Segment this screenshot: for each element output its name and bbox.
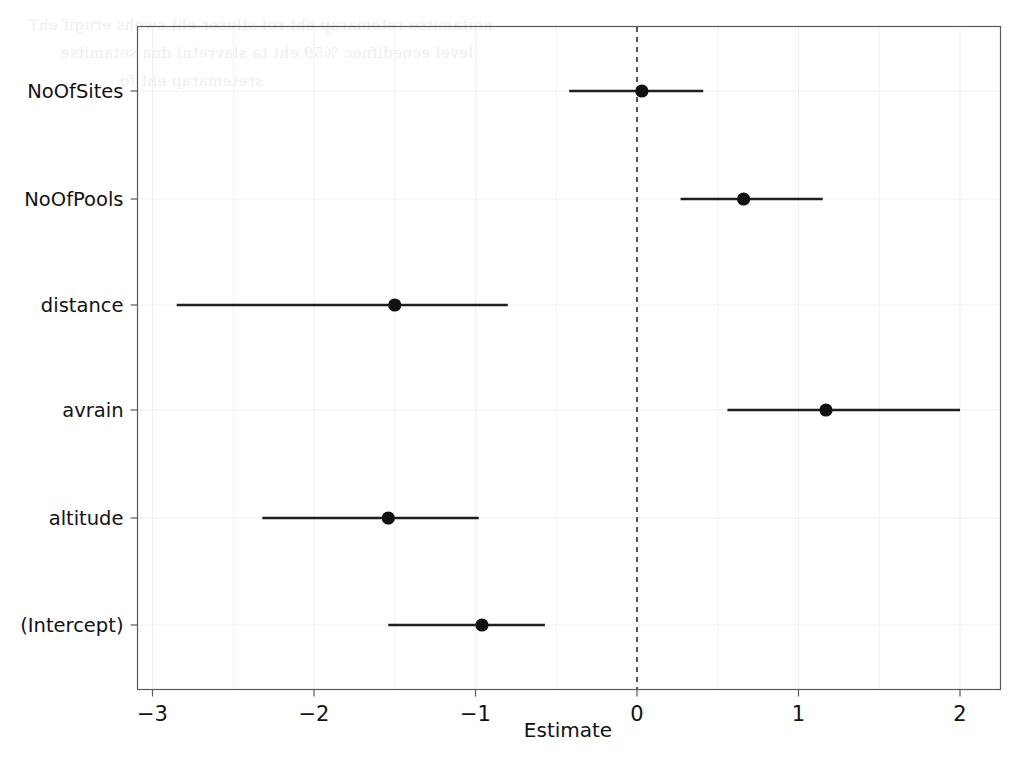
y-tick-label: (Intercept) [0, 614, 124, 637]
coefficient-row [177, 298, 508, 311]
coefficient-row [262, 511, 478, 524]
estimate-point [635, 84, 648, 97]
coefficient-plot-figure: NoOfSitesNoOfPoolsdistanceavrainaltitude… [0, 0, 1024, 773]
estimate-point [475, 618, 488, 631]
estimate-point [382, 511, 395, 524]
coefficient-row [681, 192, 823, 205]
coefficient-row [569, 84, 703, 97]
estimate-point [388, 298, 401, 311]
plot-frame-border [138, 27, 1001, 690]
x-tick-label: −1 [460, 702, 491, 726]
x-tick-label: 0 [630, 702, 643, 726]
y-axis-ticks [131, 91, 138, 625]
x-tick-label: −2 [299, 702, 330, 726]
x-axis-ticks [153, 690, 961, 697]
y-tick-label: NoOfSites [0, 80, 124, 103]
x-tick-label: 1 [792, 702, 805, 726]
x-tick-label: 2 [953, 702, 966, 726]
y-tick-label: avrain [0, 399, 124, 422]
x-tick-label: −3 [137, 702, 168, 726]
y-tick-label: NoOfPools [0, 188, 124, 211]
y-tick-label: distance [0, 294, 124, 317]
coefficient-row [727, 403, 960, 416]
coefficient-row [388, 618, 545, 631]
coefficient-series [177, 84, 960, 631]
x-axis-title: Estimate [524, 718, 612, 742]
y-tick-label: altitude [0, 507, 124, 530]
gridlines [138, 27, 1001, 690]
plot-canvas [0, 0, 1024, 773]
estimate-point [737, 192, 750, 205]
estimate-point [819, 403, 832, 416]
